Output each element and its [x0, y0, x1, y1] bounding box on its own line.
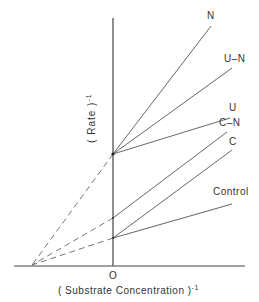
origin-label: O — [109, 270, 117, 281]
intercept-point-lower — [112, 237, 114, 239]
label-C-N: C–N — [219, 117, 241, 128]
label-U: U — [229, 102, 237, 113]
y-axis-label-text: ( Rate ) — [86, 102, 97, 143]
plot-area — [0, 0, 259, 302]
line-control — [113, 204, 232, 238]
label-C: C — [229, 136, 237, 147]
label-control: Control — [213, 186, 249, 197]
dashed-middle — [32, 218, 113, 265]
label-U-N: U–N — [224, 53, 246, 64]
y-axis-exponent: -1 — [85, 93, 92, 101]
intercept-point-upper — [111, 152, 114, 155]
dashed-lower — [32, 238, 113, 265]
line-N — [113, 26, 211, 154]
x-axis-exponent: -1 — [192, 284, 199, 291]
line-U — [113, 118, 230, 154]
line-U-N — [113, 68, 232, 154]
y-axis-label: ( Rate )-1 — [85, 93, 97, 143]
dashed-upper — [32, 154, 113, 265]
x-axis-label-text: ( Substrate Concentration ) — [58, 285, 192, 296]
x-axis-label: ( Substrate Concentration )-1 — [58, 284, 199, 296]
line-C-N — [113, 132, 227, 218]
intercept-point-middle — [112, 217, 114, 219]
label-N: N — [207, 10, 215, 21]
